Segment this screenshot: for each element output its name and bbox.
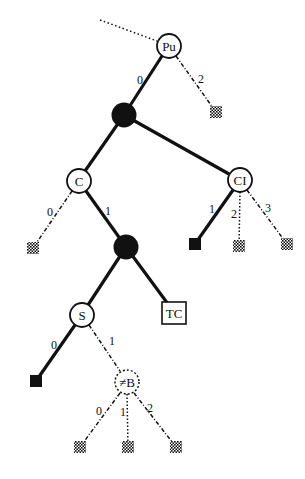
leaf-hatched-nb-2	[170, 441, 182, 453]
edge-ci-leaf1	[195, 190, 233, 244]
node-label-c: C	[75, 174, 84, 189]
junction-node-mid	[114, 235, 139, 260]
leaf-hatched-pu-2	[210, 106, 222, 118]
edge-label-pu-2: 2	[198, 72, 204, 86]
edge-nb-leaf0	[80, 393, 120, 447]
node-label-pu: Pu	[162, 39, 176, 54]
edge-label-s-1: 1	[109, 334, 115, 348]
node-label-not-b: ≠B	[119, 375, 135, 390]
leaf-solid-s-0	[30, 375, 42, 387]
node-pu: Pu	[157, 34, 181, 58]
edge-label-s-0: 0	[51, 338, 57, 352]
edge-pu-leaf2	[176, 56, 216, 112]
node-not-b: ≠B	[115, 370, 139, 394]
edge-s-leaf0	[36, 325, 75, 381]
edge-label-nb-2: 2	[147, 401, 153, 415]
node-s: S	[70, 303, 94, 327]
edge-incoming-pu	[100, 20, 157, 41]
edge-label-c-0: 0	[47, 205, 53, 219]
node-c: C	[67, 169, 91, 193]
edge-label-ci-3: 3	[265, 201, 271, 215]
edge-label-c-1: 1	[105, 204, 111, 218]
edge-label-ci-2: 2	[231, 207, 237, 221]
leaves	[27, 106, 293, 453]
edge-n1-ci	[124, 115, 229, 174]
leaf-solid-ci-1	[189, 238, 201, 250]
edge-nb-leaf2	[134, 393, 176, 447]
edge-s-nb	[89, 325, 120, 371]
edge-ci-leaf3	[247, 190, 287, 244]
edge-c-leaf0	[33, 191, 72, 248]
leaf-hatched-nb-1	[122, 441, 134, 453]
edge-label-ci-1: 1	[209, 202, 215, 216]
edge-label-nb-1: 1	[120, 405, 126, 419]
leaf-hatched-nb-0	[74, 441, 86, 453]
leaf-hatched-ci-2	[233, 240, 245, 252]
edge-nb-leaf1	[127, 394, 128, 447]
edge-label-pu-0: 0	[137, 73, 143, 87]
node-label-ci: CI	[234, 173, 247, 188]
leaf-hatched-c-0	[27, 242, 39, 254]
leaf-hatched-ci-3	[281, 238, 293, 250]
edge-ci-leaf2	[239, 192, 240, 246]
edges	[33, 20, 287, 447]
node-label-tc: TC	[166, 306, 183, 321]
node-label-s: S	[78, 308, 85, 323]
edge-label-nb-0: 0	[96, 404, 102, 418]
node-tc: TC	[162, 302, 186, 324]
node-ci: CI	[228, 168, 252, 192]
junction-node-top	[112, 103, 137, 128]
tree-diagram: 0 2 0 1 1 2 3 0 1 0 1 2 Pu C CI S TC ≠B	[0, 0, 305, 479]
